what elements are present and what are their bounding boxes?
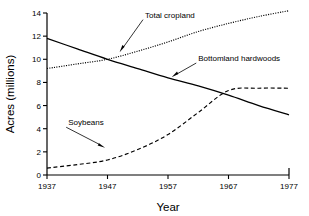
chart-figure: 02468101214 19371947195719671977 Total c… xyxy=(0,0,309,216)
annotation-label: Soybeans xyxy=(68,118,104,127)
annotation-label: Bottomland hardwoods xyxy=(198,54,280,63)
line-chart: 02468101214 19371947195719671977 Total c… xyxy=(0,0,309,216)
x-tick-label: 1947 xyxy=(99,182,117,191)
x-tick-label: 1977 xyxy=(280,182,298,191)
y-tick-label: 12 xyxy=(32,32,41,41)
x-tick-label: 1967 xyxy=(220,182,238,191)
x-tick-label: 1937 xyxy=(38,182,56,191)
y-tick-label: 4 xyxy=(37,125,42,134)
y-tick-label: 0 xyxy=(37,171,42,180)
y-axis-title: Acres (millions) xyxy=(4,55,16,134)
y-tick-label: 10 xyxy=(32,55,41,64)
x-tick-label: 1957 xyxy=(159,182,177,191)
y-tick-label: 8 xyxy=(37,78,42,87)
y-tick-label: 6 xyxy=(37,102,42,111)
y-tick-label: 14 xyxy=(32,9,41,18)
x-axis-title: Year xyxy=(156,201,179,213)
y-tick-label: 2 xyxy=(37,148,42,157)
annotation-label: Total cropland xyxy=(145,11,195,20)
